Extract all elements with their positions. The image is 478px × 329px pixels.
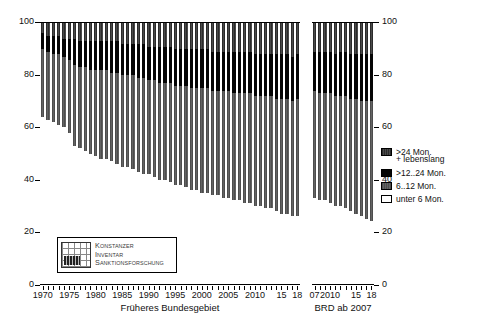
segment-over24 (360, 23, 363, 54)
segment-over24 (354, 23, 357, 54)
segment-over24 (269, 23, 272, 54)
segment-m6to12 (94, 70, 97, 156)
x-tick-2012 (340, 286, 341, 290)
legend-swatch-over24 (381, 148, 392, 156)
segment-over24 (275, 23, 278, 54)
legend-label-m6to12: 6..12 Mon. (396, 181, 436, 191)
watermark-logo-icon (61, 242, 91, 268)
segment-m6to12 (41, 49, 44, 117)
segment-m12to24 (354, 54, 357, 98)
segment-m6to12 (68, 60, 71, 133)
segment-m12to24 (115, 41, 118, 72)
y-label-left-100: 100 (8, 17, 34, 26)
segment-over24 (46, 23, 49, 36)
segment-over24 (68, 23, 71, 39)
segment-over24 (323, 23, 326, 52)
segment-over24 (264, 23, 267, 54)
segment-m12to24 (137, 44, 140, 78)
segment-m12to24 (238, 52, 241, 94)
watermark-line-1: KONSTANZER (95, 242, 164, 251)
segment-over24 (158, 23, 161, 46)
legend-item-under6[interactable]: unter 6 Mon. (381, 194, 477, 204)
segment-m12to24 (291, 57, 294, 101)
legend-swatch-under6 (381, 195, 392, 203)
segment-under6 (248, 203, 251, 284)
segment-over24 (84, 23, 87, 41)
segment-over24 (285, 23, 288, 54)
segment-m12to24 (329, 52, 332, 94)
segment-over24 (115, 23, 118, 41)
segment-over24 (222, 23, 225, 52)
segment-under6 (238, 200, 241, 284)
segment-m12to24 (147, 47, 150, 81)
legend-label-m12to24: >12..24 Mon. (396, 168, 446, 178)
segment-m6to12 (158, 83, 161, 180)
segment-m12to24 (41, 33, 44, 49)
x-tick-1987 (133, 286, 134, 290)
segment-m12to24 (200, 49, 203, 88)
segment-under6 (190, 190, 193, 284)
segment-over24 (153, 23, 156, 46)
segment-over24 (110, 23, 113, 41)
legend-item-m12to24[interactable]: >12..24 Mon. (381, 168, 477, 178)
segment-m12to24 (121, 44, 124, 75)
segment-over24 (216, 23, 219, 52)
segment-over24 (41, 23, 44, 33)
segment-m12to24 (110, 41, 113, 72)
segment-m6to12 (259, 96, 262, 206)
segment-m6to12 (354, 99, 357, 214)
segment-m6to12 (339, 96, 342, 206)
segment-m6to12 (153, 80, 156, 177)
segment-over24 (62, 23, 65, 39)
segment-under6 (52, 122, 55, 284)
segment-over24 (195, 23, 198, 49)
segment-m6to12 (238, 93, 241, 200)
x-label-15: 15 (351, 291, 361, 300)
segment-m6to12 (137, 78, 140, 172)
segment-under6 (280, 214, 283, 284)
segment-under6 (370, 221, 373, 284)
segment-over24 (248, 23, 251, 52)
x-tick-1982 (106, 286, 107, 290)
bar-2018[interactable] (369, 23, 374, 284)
segment-over24 (147, 23, 150, 46)
segment-over24 (179, 23, 182, 49)
segment-over24 (318, 23, 321, 52)
segment-m6to12 (313, 91, 316, 198)
segment-m12to24 (344, 52, 347, 96)
segment-under6 (211, 195, 214, 284)
segment-m6to12 (99, 70, 102, 159)
segment-m6to12 (57, 54, 60, 124)
segment-under6 (318, 200, 321, 284)
x-tick-1972 (53, 286, 54, 290)
bar-2018[interactable] (295, 23, 300, 284)
y-tick-right-100 (374, 22, 379, 23)
segment-m6to12 (344, 96, 347, 208)
segment-under6 (195, 190, 198, 284)
segment-m6to12 (254, 96, 257, 206)
segment-over24 (296, 23, 299, 54)
segment-m12to24 (179, 49, 182, 86)
segment-m6to12 (169, 83, 172, 182)
legend-item-m6to12[interactable]: 6..12 Mon. (381, 181, 477, 191)
segment-under6 (184, 187, 187, 284)
segment-under6 (206, 193, 209, 284)
watermark-line-2: INVENTAR (95, 251, 164, 260)
segment-m12to24 (52, 36, 55, 54)
segment-m12to24 (99, 41, 102, 70)
segment-over24 (89, 23, 92, 41)
segment-under6 (344, 208, 347, 284)
segment-over24 (313, 23, 316, 52)
segment-m6to12 (360, 101, 363, 216)
segment-m12to24 (142, 44, 145, 78)
x-tick-1992 (159, 286, 160, 290)
y-tick-right-0 (374, 285, 379, 286)
legend-label-under6: unter 6 Mon. (396, 194, 444, 204)
segment-m6to12 (329, 93, 332, 203)
segment-over24 (163, 23, 166, 46)
x-label-2010: 2010 (320, 291, 340, 300)
y-label-right-100: 100 (382, 17, 397, 26)
segment-m6to12 (115, 73, 118, 164)
y-tick-right-60 (374, 127, 379, 128)
segment-over24 (259, 23, 262, 54)
